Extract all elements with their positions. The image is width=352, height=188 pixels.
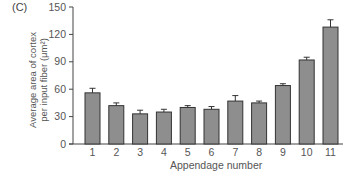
bar-2 (109, 106, 124, 144)
bar-10 (299, 60, 314, 144)
x-tick-label: 11 (325, 146, 336, 158)
bar-9 (275, 86, 290, 144)
bar-3 (133, 114, 148, 144)
bar-6 (204, 109, 219, 144)
x-tick-label: 6 (209, 146, 215, 158)
y-tick-label: 120 (48, 28, 66, 40)
x-tick-label: 2 (113, 146, 119, 158)
x-tick-label: 4 (161, 146, 167, 158)
bar-5 (180, 107, 195, 144)
y-tick-label: 30 (54, 110, 66, 122)
x-tick-label: 3 (137, 146, 143, 158)
y-tick-label: 150 (48, 1, 66, 13)
y-tick-label: 0 (60, 138, 66, 150)
y-tick-label: 90 (54, 55, 66, 67)
bar-chart: 03060901201501234567891011 (0, 0, 352, 188)
bar-8 (252, 103, 267, 144)
x-tick-label: 8 (256, 146, 262, 158)
x-tick-label: 7 (232, 146, 238, 158)
x-tick-label: 9 (280, 146, 286, 158)
bar-1 (85, 93, 100, 144)
bar-4 (156, 112, 171, 144)
y-tick-label: 60 (54, 83, 66, 95)
bar-7 (228, 101, 243, 144)
x-tick-label: 5 (185, 146, 191, 158)
bar-11 (323, 27, 338, 144)
x-tick-label: 10 (301, 146, 313, 158)
x-tick-label: 1 (90, 146, 96, 158)
